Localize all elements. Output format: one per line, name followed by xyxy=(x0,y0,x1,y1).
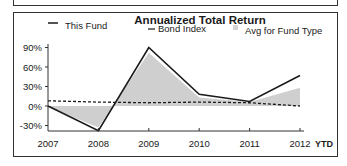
x-tick-label: 2010 xyxy=(189,138,210,149)
y-axis-ticks: 90%60%30%0%-30% xyxy=(20,42,48,131)
y-tick-label: -30% xyxy=(20,120,43,131)
legend-bond-index: Bond Index xyxy=(158,23,206,34)
legend: This Fund Bond Index Avg for Fund Type xyxy=(48,20,322,36)
x-tick-label: 2007 xyxy=(37,138,58,149)
y-tick-label: 90% xyxy=(23,42,43,53)
legend-avg-fund-type: Avg for Fund Type xyxy=(245,25,322,36)
annualized-return-chart: Annualized Total Return This Fund Bond I… xyxy=(0,0,347,166)
ytd-label: YTD xyxy=(315,139,334,149)
y-tick-label: 60% xyxy=(23,62,43,73)
x-tick-label: 2008 xyxy=(88,138,109,149)
x-tick-label: 2011 xyxy=(239,138,259,149)
legend-this-fund: This Fund xyxy=(65,20,107,31)
avg-fund-type-area xyxy=(48,53,300,128)
avg-fund-type-legend-swatch xyxy=(233,25,238,30)
avg-fund-type-area-shape xyxy=(48,53,300,128)
x-tick-label: 2012 xyxy=(289,138,310,149)
y-tick-label: 30% xyxy=(23,81,43,92)
x-tick-label: 2009 xyxy=(138,138,159,149)
y-tick-label: 0% xyxy=(28,101,42,112)
